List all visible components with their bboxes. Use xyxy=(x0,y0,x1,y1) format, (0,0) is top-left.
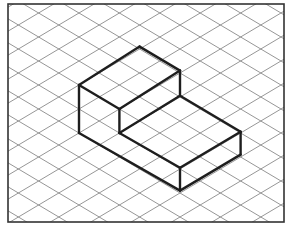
isometric-drawing xyxy=(0,0,287,231)
